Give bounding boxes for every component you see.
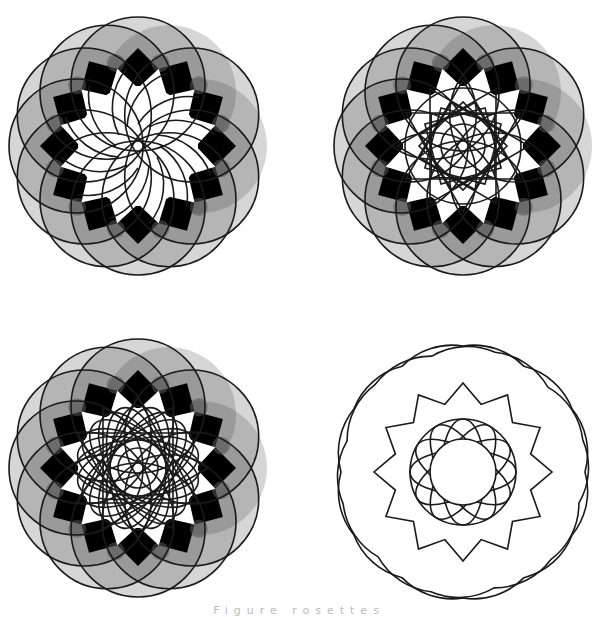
rosette-outline <box>337 345 588 599</box>
rosette-swirl <box>9 17 267 275</box>
rosette-dense-ellipses <box>9 339 267 597</box>
figure-caption: Figure rosettes <box>0 604 598 617</box>
rosette-star-squares <box>334 17 592 275</box>
